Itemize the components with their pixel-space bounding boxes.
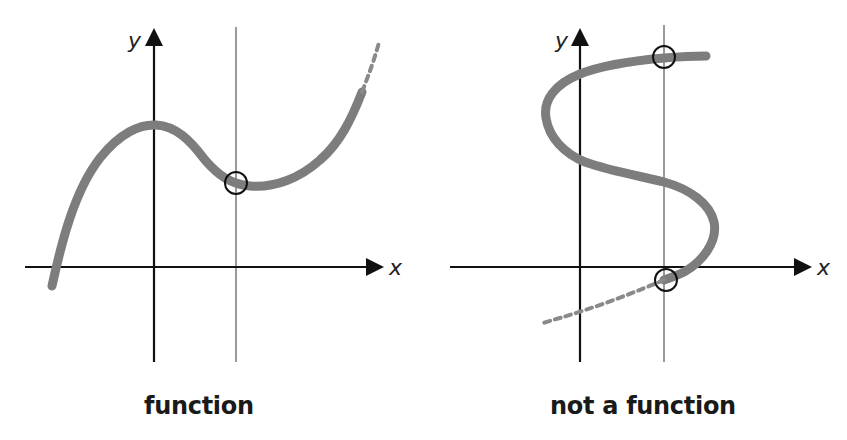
caption-not-function: not a function — [550, 392, 736, 420]
caption-function: function — [144, 392, 254, 420]
diagram-stage: y x y x function not a function — [0, 0, 847, 440]
x-axis-label: x — [816, 255, 831, 280]
y-axis-label: y — [127, 28, 142, 53]
y-axis-arrow-icon — [571, 28, 589, 46]
s-curve-tail — [540, 280, 664, 324]
x-axis-arrow-icon — [366, 258, 384, 276]
y-axis-label: y — [554, 28, 569, 53]
panel-not-function: y x — [450, 25, 831, 362]
function-curve — [52, 92, 362, 286]
x-axis-label: x — [388, 255, 403, 280]
diagram-svg: y x y x — [0, 0, 847, 440]
x-axis-arrow-icon — [794, 258, 812, 276]
s-curve — [546, 56, 715, 280]
function-curve-tail — [362, 42, 379, 92]
panel-function: y x — [25, 27, 403, 362]
y-axis-arrow-icon — [145, 28, 163, 46]
